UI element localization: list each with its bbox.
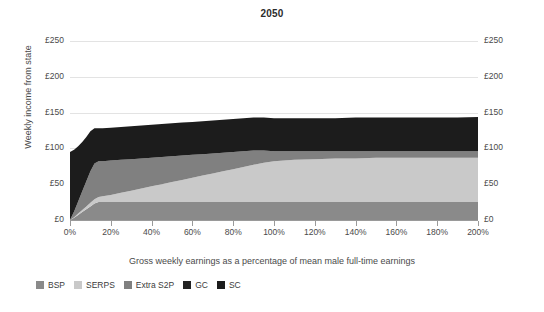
x-tickmark-60 (192, 221, 193, 226)
legend-swatch-icon (74, 281, 82, 289)
area-series-bsp (70, 202, 478, 220)
y-tick-left-200: £200 (4, 72, 64, 81)
x-tick-60: 60% (170, 228, 214, 237)
x-tickmark-200 (478, 221, 479, 226)
x-tick-100: 100% (252, 228, 296, 237)
x-tick-120: 120% (293, 228, 337, 237)
x-tick-160: 160% (374, 228, 418, 237)
x-tickmark-0 (70, 221, 71, 226)
x-tick-40: 40% (130, 228, 174, 237)
x-tick-180: 180% (415, 228, 459, 237)
x-tickmark-120 (315, 221, 316, 226)
y-tick-right-200: £200 (484, 72, 544, 81)
y-tick-right-150: £150 (484, 108, 544, 117)
x-tickmark-80 (233, 221, 234, 226)
legend-swatch-icon (124, 281, 132, 289)
x-tickmark-180 (437, 221, 438, 226)
x-axis-title: Gross weekly earnings as a percentage of… (0, 256, 544, 266)
stacked-area-paths (70, 41, 478, 220)
chart-legend: BSPSERPSExtra S2PGCSC (36, 281, 250, 290)
legend-swatch-icon (217, 281, 225, 289)
x-tick-80: 80% (211, 228, 255, 237)
legend-swatch-icon (183, 281, 191, 289)
x-tick-0: 0% (48, 228, 92, 237)
legend-label: SERPS (86, 281, 115, 290)
legend-item-gc[interactable]: GC (183, 281, 208, 290)
legend-label: GC (195, 281, 208, 290)
x-tickmark-20 (111, 221, 112, 226)
y-tick-right-100: £100 (484, 143, 544, 152)
legend-label: BSP (48, 281, 65, 290)
legend-label: Extra S2P (136, 281, 174, 290)
x-tick-200: 200% (456, 228, 500, 237)
legend-item-serps[interactable]: SERPS (74, 281, 115, 290)
x-tickmark-140 (356, 221, 357, 226)
x-tick-140: 140% (334, 228, 378, 237)
legend-item-extra-s2p[interactable]: Extra S2P (124, 281, 174, 290)
legend-swatch-icon (36, 281, 44, 289)
x-tick-20: 20% (89, 228, 133, 237)
legend-item-bsp[interactable]: BSP (36, 281, 65, 290)
y-tick-right-250: £250 (484, 36, 544, 45)
chart-container: 2050 Weekly income from state £0£0£50£50… (0, 0, 544, 312)
y-tick-left-100: £100 (4, 143, 64, 152)
chart-title: 2050 (0, 8, 544, 19)
legend-label: SC (229, 281, 241, 290)
legend-item-sc[interactable]: SC (217, 281, 241, 290)
y-tick-left-50: £50 (4, 179, 64, 188)
y-tick-left-150: £150 (4, 108, 64, 117)
x-tickmark-40 (152, 221, 153, 226)
y-tick-right-50: £50 (484, 179, 544, 188)
x-tickmark-100 (274, 221, 275, 226)
y-tick-left-0: £0 (4, 215, 64, 224)
y-tick-left-250: £250 (4, 36, 64, 45)
plot-area (70, 41, 478, 220)
y-tick-right-0: £0 (484, 215, 544, 224)
x-tickmark-160 (396, 221, 397, 226)
